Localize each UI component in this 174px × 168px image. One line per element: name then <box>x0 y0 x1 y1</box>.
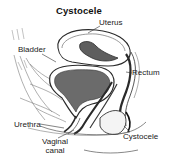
label-rectum: Rectum <box>132 68 160 77</box>
urethra <box>64 116 76 132</box>
diagram-title: Cystocele <box>56 5 102 16</box>
cystocele-diagram: Cystocele Uterus Bladder Rectum Urethra … <box>0 0 174 168</box>
label-vaginal-line2: canal <box>38 146 72 155</box>
label-uterus: Uterus <box>99 18 123 27</box>
cystocele-bulge <box>100 111 126 135</box>
label-bladder: Bladder <box>18 45 46 54</box>
label-vaginal-canal: Vaginal canal <box>38 137 72 155</box>
label-vaginal-line1: Vaginal <box>38 137 72 146</box>
label-cystocele: Cystocele <box>123 132 158 141</box>
anatomy-illustration <box>0 0 174 168</box>
label-urethra: Urethra <box>14 120 41 129</box>
